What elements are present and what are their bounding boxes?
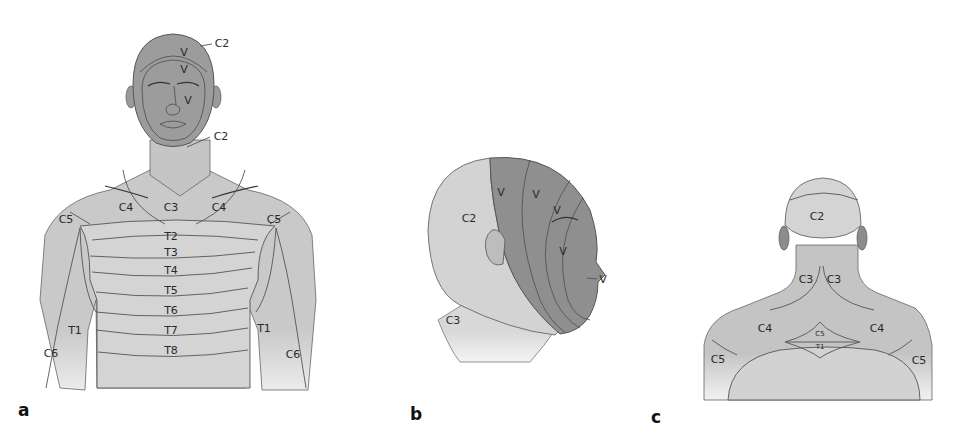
label-c3-left: C3 — [799, 273, 814, 286]
panel-c-posterior-view: C2 C3 C3 C4 C4 C5 T1 C5 C5 c — [651, 178, 932, 427]
label-c5-right: C5 — [912, 354, 927, 367]
label-t1-center: T1 — [815, 343, 825, 351]
label-v-lip: V — [599, 273, 607, 286]
label-c3-right: C3 — [827, 273, 842, 286]
label-c4-left: C4 — [119, 201, 134, 214]
label-c4-left: C4 — [758, 322, 773, 335]
panel-label-a: a — [18, 400, 29, 420]
ear-right — [857, 226, 867, 250]
label-c2-chin: C2 — [214, 130, 229, 143]
label-c4-right: C4 — [212, 201, 227, 214]
label-v3: V — [553, 204, 561, 217]
panel-label-b: b — [410, 404, 422, 424]
label-c4-right: C4 — [870, 322, 885, 335]
head — [133, 34, 214, 147]
label-t7: T7 — [163, 324, 178, 337]
panel-b-lateral-view: C2 V V V V V C3 b — [410, 157, 607, 424]
label-c2-top: C2 — [215, 37, 230, 50]
label-v4: V — [559, 245, 567, 258]
label-c5-center: C5 — [815, 330, 824, 338]
label-c5-right: C5 — [267, 213, 282, 226]
label-v-mid: V — [184, 94, 192, 107]
label-t6: T6 — [163, 304, 178, 317]
label-v-forehead: V — [180, 46, 188, 59]
label-c3-center: C3 — [164, 201, 179, 214]
label-c6-right: C6 — [286, 348, 301, 361]
label-v-upper: V — [180, 63, 188, 76]
panel-label-c: c — [651, 407, 661, 427]
label-v2: V — [532, 188, 540, 201]
label-t1-left: T1 — [67, 324, 82, 337]
label-c6-left: C6 — [44, 347, 59, 360]
label-t4: T4 — [163, 264, 178, 277]
label-t3: T3 — [163, 246, 178, 259]
label-t8: T8 — [163, 344, 178, 357]
label-t1-right: T1 — [256, 322, 271, 335]
label-c2: C2 — [462, 212, 477, 225]
label-c2: C2 — [810, 210, 825, 223]
label-v1: V — [497, 186, 505, 199]
label-c3: C3 — [446, 314, 461, 327]
dermatome-figure: C2 V V V C2 C4 C3 C4 C5 C5 T2 T3 T4 T5 T… — [0, 0, 957, 445]
label-t5: T5 — [163, 284, 178, 297]
panel-a-anterior-view: C2 V V V C2 C4 C3 C4 C5 C5 T2 T3 T4 T5 T… — [18, 34, 316, 420]
label-c5-left: C5 — [59, 213, 74, 226]
ear-left — [779, 226, 789, 250]
head-c2 — [785, 178, 861, 238]
label-t2: T2 — [163, 230, 178, 243]
label-c5-left: C5 — [711, 353, 726, 366]
